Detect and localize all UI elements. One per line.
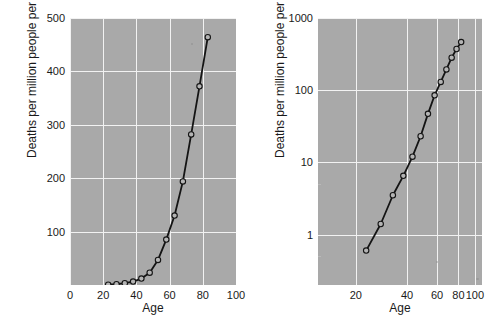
x-tick-label: 100 bbox=[457, 290, 493, 301]
log-log-panel: 1101001000 20406080100 Age Deaths per mi… bbox=[248, 0, 496, 331]
log-log-series bbox=[318, 18, 482, 285]
series-data-point bbox=[444, 67, 449, 72]
linear-series bbox=[70, 18, 236, 285]
log-log-x-axis-title: Age bbox=[318, 302, 482, 314]
x-tick-label: 60 bbox=[152, 290, 188, 301]
scan-speck bbox=[191, 43, 193, 45]
series-data-point bbox=[378, 221, 383, 226]
x-tick-label: 20 bbox=[338, 290, 374, 301]
series-data-point bbox=[172, 213, 177, 218]
series-data-point bbox=[449, 55, 454, 60]
linear-y-axis-title: Deaths per million people per year bbox=[26, 0, 38, 158]
series-data-point bbox=[401, 173, 406, 178]
figure-container: 100200300400500 020406080100 Age Deaths … bbox=[0, 0, 496, 331]
y-tick-label: 200 bbox=[0, 173, 65, 184]
series-data-point bbox=[139, 276, 144, 281]
series-data-point bbox=[130, 279, 135, 284]
series-data-point bbox=[122, 280, 127, 285]
series-data-point bbox=[188, 132, 193, 137]
linear-x-axis-title: Age bbox=[70, 302, 236, 314]
log-log-plot-area bbox=[318, 18, 482, 285]
series-data-point bbox=[155, 257, 160, 262]
series-data-point bbox=[205, 35, 210, 40]
series-line bbox=[366, 42, 461, 250]
series-data-point bbox=[410, 154, 415, 159]
log-log-y-axis-title: Deaths per million people per year bbox=[274, 0, 286, 158]
x-tick-label: 0 bbox=[52, 290, 88, 301]
x-tick-label: 20 bbox=[85, 290, 121, 301]
series-data-point bbox=[390, 193, 395, 198]
series-data-point bbox=[180, 179, 185, 184]
scan-speck bbox=[476, 278, 479, 280]
series-data-point bbox=[164, 237, 169, 242]
series-data-point bbox=[425, 111, 430, 116]
linear-panel: 100200300400500 020406080100 Age Deaths … bbox=[0, 0, 248, 331]
linear-plot-area bbox=[70, 18, 236, 285]
y-tick-label: 10 bbox=[248, 157, 313, 168]
series-data-point bbox=[363, 248, 368, 253]
series-data-point bbox=[458, 39, 463, 44]
series-data-point bbox=[147, 270, 152, 275]
series-data-point bbox=[114, 282, 119, 285]
y-tick-label: 1 bbox=[248, 230, 313, 241]
series-data-point bbox=[105, 282, 110, 285]
scan-speck bbox=[436, 261, 438, 263]
series-data-point bbox=[438, 79, 443, 84]
series-data-point bbox=[418, 134, 423, 139]
x-tick-label: 40 bbox=[118, 290, 154, 301]
series-line bbox=[108, 37, 208, 284]
series-data-point bbox=[432, 93, 437, 98]
y-tick-label: 100 bbox=[0, 227, 65, 238]
series-data-point bbox=[454, 46, 459, 51]
x-tick-label: 80 bbox=[185, 290, 221, 301]
series-data-point bbox=[197, 84, 202, 89]
